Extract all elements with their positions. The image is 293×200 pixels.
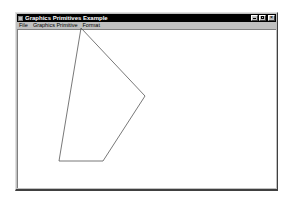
- polygon-shape: [59, 28, 145, 161]
- polygon-drawing: [0, 0, 293, 200]
